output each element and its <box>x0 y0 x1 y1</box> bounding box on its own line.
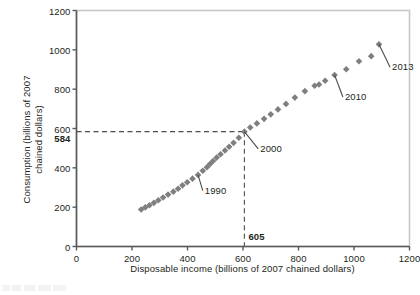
plot-frame <box>77 11 410 247</box>
y-axis-tick-label-584: 584 <box>29 133 71 144</box>
x-axis-tick-label: 200 <box>124 253 140 264</box>
annotation-label-1990: 1990 <box>205 185 227 196</box>
x-axis-tick-label: 600 <box>235 253 251 264</box>
annotation-label-2010: 2010 <box>345 91 367 102</box>
x-axis-tick-label-605: 605 <box>248 231 264 242</box>
chart-figure: Consumption (billions of 2007 chained do… <box>0 0 420 295</box>
page-artifact <box>2 285 66 291</box>
y-axis-tick-label: 200 <box>29 202 71 213</box>
y-axis-tick-label: 800 <box>29 84 71 95</box>
y-axis-tick-label: 1000 <box>29 44 71 55</box>
y-axis-tick-label: 0 <box>29 241 71 252</box>
x-axis-tick-label: 800 <box>290 253 306 264</box>
y-axis-tick-label: 400 <box>29 162 71 173</box>
annotation-label-2000: 2000 <box>260 143 282 154</box>
x-axis-label: Disposable income (billions of 2007 chai… <box>76 263 409 274</box>
x-axis-tick-label: 1200 <box>399 253 420 264</box>
x-axis-tick-label: 400 <box>179 253 195 264</box>
x-axis-tick-label: 1000 <box>343 253 365 264</box>
annotation-label-2013: 2013 <box>392 61 414 72</box>
x-axis-tick-label: 0 <box>74 253 79 264</box>
y-axis-tick-label: 1200 <box>29 5 71 16</box>
